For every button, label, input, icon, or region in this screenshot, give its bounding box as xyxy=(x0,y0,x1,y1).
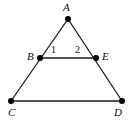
geometry-canvas xyxy=(0,0,131,125)
angle-label-2: 2 xyxy=(75,45,80,55)
geometry-figure: A B E C D 1 2 xyxy=(0,0,131,125)
vertex-label-a: A xyxy=(63,2,70,13)
vertex-point-c xyxy=(8,98,14,104)
vertex-label-b: B xyxy=(27,51,34,62)
vertex-point-a xyxy=(65,16,71,22)
vertex-label-e: E xyxy=(102,51,109,62)
vertex-point-b xyxy=(37,55,43,61)
angle-label-1: 1 xyxy=(51,45,56,55)
vertex-point-e xyxy=(93,55,99,61)
vertex-point-d xyxy=(119,98,125,104)
vertex-label-c: C xyxy=(8,107,15,118)
vertex-label-d: D xyxy=(114,107,122,118)
